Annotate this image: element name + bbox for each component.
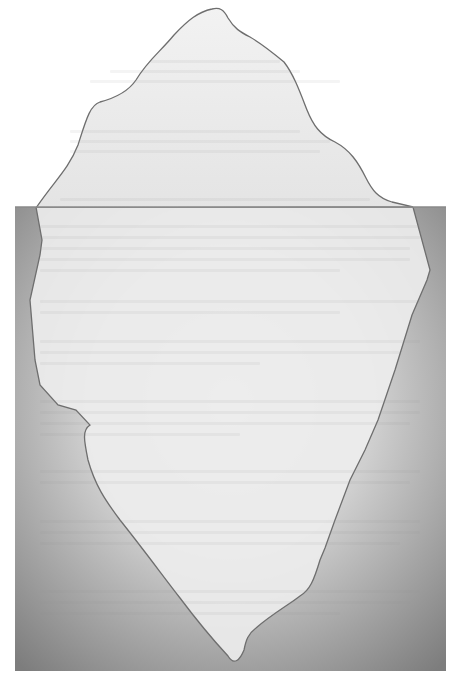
iceberg-tip [36,8,413,208]
iceberg-svg [0,0,455,676]
iceberg-diagram: Iceberg [0,0,455,676]
